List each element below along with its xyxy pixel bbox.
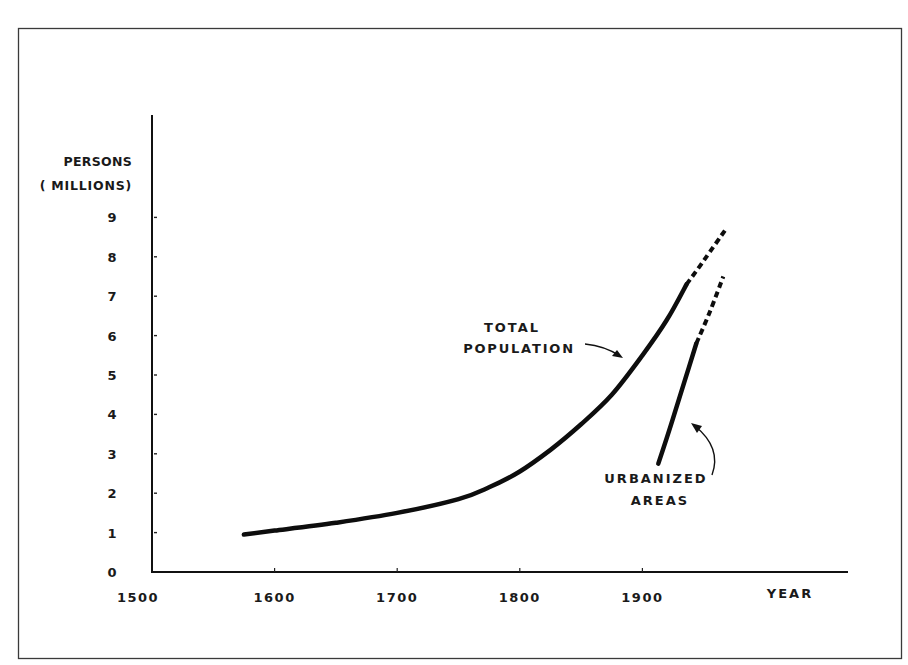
y-tick-label: 0 <box>107 565 116 580</box>
y-tick-label: 6 <box>107 329 116 344</box>
y-axis-title-line2: ( MILLIONS) <box>40 178 132 193</box>
series-urbanized-areas-projection <box>696 277 723 344</box>
x-tick-label: 1600 <box>254 590 296 605</box>
annotation-urban-line2: AREAS <box>631 493 689 508</box>
x-tick-label: 1500 <box>117 590 159 605</box>
series-total-population-solid <box>244 284 687 534</box>
x-tick-label: 1800 <box>499 590 541 605</box>
y-tick-label: 3 <box>107 447 116 462</box>
arrowhead-total-icon <box>612 350 623 358</box>
annotation-total-line2: POPULATION <box>463 341 575 356</box>
x-axis-title: YEAR <box>766 586 813 601</box>
series-urbanized-areas-solid <box>658 344 696 464</box>
annotation-total-line1: TOTAL <box>484 320 540 335</box>
y-axis-title-line1: PERSONS <box>63 154 132 169</box>
y-tick-label: 7 <box>107 289 116 304</box>
y-tick-label: 8 <box>107 250 116 265</box>
y-tick-label: 9 <box>107 210 116 225</box>
chart: 012345678915001600170018001900 PERSONS (… <box>0 0 908 665</box>
tick-labels: 012345678915001600170018001900 <box>107 210 663 605</box>
arrow-urbanized-areas-icon <box>695 426 715 475</box>
x-tick-label: 1900 <box>621 590 663 605</box>
y-tick-label: 2 <box>107 486 116 501</box>
x-tick-label: 1700 <box>376 590 418 605</box>
annotation-urban-line1: URBANIZED <box>604 471 707 486</box>
y-tick-label: 5 <box>107 368 116 383</box>
figure-frame <box>19 29 902 659</box>
ticks <box>154 217 642 572</box>
series-total-population-projection <box>687 229 726 284</box>
y-tick-label: 4 <box>107 407 116 422</box>
series-lines <box>244 229 726 534</box>
y-tick-label: 1 <box>107 526 116 541</box>
